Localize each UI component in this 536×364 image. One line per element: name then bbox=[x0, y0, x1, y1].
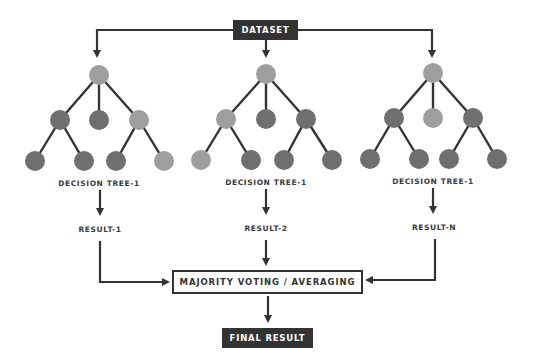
tree-to-result-arrows bbox=[100, 188, 433, 212]
dataset-box: DATASET bbox=[233, 20, 298, 40]
result-1-label: RESULT-1 bbox=[78, 225, 121, 234]
tree-3-label: DECISION TREE-1 bbox=[392, 177, 474, 186]
majority-voting-box: MAJORITY VOTING / AVERAGING bbox=[172, 270, 363, 294]
result-2-label: RESULT-2 bbox=[244, 224, 287, 233]
tree-node bbox=[129, 110, 149, 130]
tree-1-label: DECISION TREE-1 bbox=[58, 179, 140, 188]
tree-node bbox=[89, 110, 109, 130]
tree-2-label: DECISION TREE-1 bbox=[225, 178, 307, 187]
tree-node bbox=[256, 109, 276, 129]
result-n-label: RESULT-N bbox=[412, 223, 456, 232]
tree-leaf bbox=[25, 151, 45, 171]
tree-node bbox=[296, 109, 316, 129]
tree-leaf bbox=[409, 149, 429, 169]
tree-leaf bbox=[191, 150, 211, 170]
tree-node bbox=[463, 108, 483, 128]
tree-leaf bbox=[154, 151, 174, 171]
tree-leaf bbox=[274, 150, 294, 170]
tree-1-root-node bbox=[89, 65, 109, 85]
tree-leaf bbox=[241, 150, 261, 170]
tree-leaf bbox=[360, 149, 380, 169]
tree-3-root-node bbox=[423, 63, 443, 83]
tree-node bbox=[216, 109, 236, 129]
tree-leaf bbox=[74, 151, 94, 171]
tree-node bbox=[423, 108, 443, 128]
tree-2-root-node bbox=[256, 64, 276, 84]
tree-1-nodes bbox=[25, 65, 174, 171]
tree-leaf bbox=[487, 149, 507, 169]
tree-node bbox=[384, 108, 404, 128]
final-result-box: FINAL RESULT bbox=[222, 328, 313, 348]
tree-leaf bbox=[106, 151, 126, 171]
tree-node bbox=[50, 110, 70, 130]
tree-leaf bbox=[439, 149, 459, 169]
tree-2-nodes bbox=[191, 64, 342, 170]
tree-leaf bbox=[322, 150, 342, 170]
tree-3-nodes bbox=[360, 63, 507, 169]
